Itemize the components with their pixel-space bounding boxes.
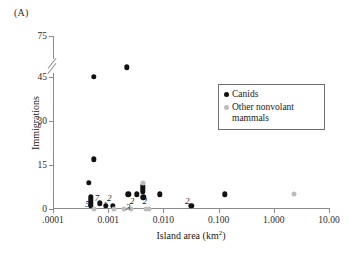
x-tick-.0001 xyxy=(53,208,54,213)
x-tick-label-0.010: 0.010 xyxy=(153,215,174,225)
y-tick-label-15: 15 xyxy=(38,160,48,170)
data-point xyxy=(222,192,227,197)
data-point xyxy=(91,207,96,212)
x-axis-title: Island area (km2) xyxy=(53,229,329,241)
x-tick-10.00 xyxy=(329,208,330,213)
x-tick-label-10.00: 10.00 xyxy=(318,215,339,225)
data-point xyxy=(134,192,139,197)
x-axis-title-tail: ) xyxy=(222,230,225,241)
panel-label: (A) xyxy=(14,7,28,18)
data-point xyxy=(291,192,296,197)
data-point xyxy=(86,180,91,185)
x-tick-label-.0001: .0001 xyxy=(42,215,63,225)
x-tick-0.010 xyxy=(163,208,164,213)
data-point xyxy=(140,189,145,194)
x-tick-label-0.001: 0.001 xyxy=(98,215,119,225)
legend-label-other-nonvolant-mammals: Other nonvolant mammals xyxy=(232,102,319,124)
y-tick-15 xyxy=(49,165,54,166)
y-tick-75 xyxy=(49,36,54,37)
count-annotation: 2 xyxy=(143,196,148,206)
x-tick-label-1.000: 1.000 xyxy=(263,215,284,225)
legend-label-canids: Canids xyxy=(232,89,319,100)
data-point xyxy=(124,65,129,70)
y-tick-label-75: 75 xyxy=(38,31,48,41)
chart-figure: (A) Immigrations Island area (km2) 01530… xyxy=(0,0,348,257)
x-tick-label-0.100: 0.100 xyxy=(208,215,229,225)
legend: Canids Other nonvolant mammals xyxy=(218,84,325,130)
data-point xyxy=(91,74,96,79)
x-tick-0.001 xyxy=(108,208,109,213)
legend-item-canids: Canids xyxy=(224,89,319,100)
legend-marker-canids-icon xyxy=(224,92,229,97)
data-point xyxy=(112,207,117,212)
data-point xyxy=(140,180,145,185)
x-tick-0.100 xyxy=(219,208,220,213)
count-annotation: 2 xyxy=(107,193,112,203)
y-tick-label-45: 45 xyxy=(38,72,48,82)
count-annotation: 5 xyxy=(85,199,90,209)
count-annotation: 2 xyxy=(185,196,190,206)
legend-item-other-nonvolant-mammals: Other nonvolant mammals xyxy=(224,102,319,124)
data-point xyxy=(157,192,162,197)
y-tick-label-0: 0 xyxy=(42,204,47,214)
y-tick-label-30: 30 xyxy=(38,116,48,126)
legend-marker-other-icon xyxy=(224,105,229,110)
data-point xyxy=(91,156,96,161)
y-tick-30 xyxy=(49,121,54,122)
count-annotation: 2 xyxy=(130,196,135,206)
y-axis-line xyxy=(53,36,54,209)
count-annotation: 7 xyxy=(95,193,100,203)
x-tick-1.000 xyxy=(274,208,275,213)
y-tick-45 xyxy=(49,77,54,78)
y-axis-break-icon xyxy=(48,57,60,73)
x-axis-title-main: Island area (km xyxy=(156,230,218,241)
data-point xyxy=(147,207,152,212)
y-axis-title-container: Immigrations xyxy=(0,36,26,209)
